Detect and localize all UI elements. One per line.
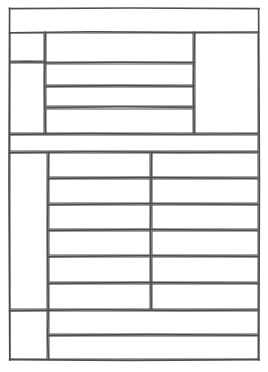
upper-left-column-row-divider bbox=[10, 62, 45, 63]
lower-cell-r6c1[interactable] bbox=[49, 284, 150, 309]
lower-cell-r5c2[interactable] bbox=[152, 257, 258, 282]
upper-middle-cell-4[interactable] bbox=[46, 109, 193, 133]
lower-cell-r4c1[interactable] bbox=[49, 231, 150, 255]
lower-left-column-cell[interactable] bbox=[10, 153, 47, 309]
frame-right-border bbox=[259, 9, 260, 360]
middle-band-bottom-rule bbox=[10, 152, 259, 153]
lower-cell-r3c1[interactable] bbox=[49, 205, 150, 229]
upper-middle-cell-3[interactable] bbox=[46, 87, 193, 106]
footer-cell-row2[interactable] bbox=[49, 336, 258, 359]
footer-left-column-cell[interactable] bbox=[10, 311, 47, 359]
lower-cell-r6c2[interactable] bbox=[152, 284, 258, 309]
upper-left-cell-2[interactable] bbox=[10, 63, 44, 133]
lower-cell-r3c2[interactable] bbox=[152, 205, 258, 229]
upper-left-cell-1[interactable] bbox=[10, 33, 44, 61]
middle-band-cell[interactable] bbox=[10, 135, 258, 151]
form-grid-sheet bbox=[0, 0, 268, 372]
middle-band bbox=[10, 152, 259, 153]
frame-top-border bbox=[10, 8, 260, 9]
frame-bottom-border bbox=[10, 360, 259, 361]
footer-table-row-divider bbox=[48, 335, 258, 336]
lower-cell-r2c1[interactable] bbox=[49, 179, 150, 203]
lower-cell-r1c2[interactable] bbox=[152, 153, 258, 177]
upper-middle-row-divider-2 bbox=[45, 86, 194, 87]
upper-table-col-divider-2 bbox=[194, 32, 195, 134]
lower-cell-r2c2[interactable] bbox=[152, 179, 258, 203]
lower-table-row-divider-2 bbox=[48, 204, 258, 205]
upper-table-col-divider-1 bbox=[45, 32, 46, 134]
upper-table-bottom-rule bbox=[10, 134, 259, 135]
lower-table-col-divider-1 bbox=[48, 152, 49, 310]
lower-table-row-divider-1 bbox=[48, 178, 258, 179]
upper-middle-cell-2[interactable] bbox=[46, 64, 193, 85]
footer-cell-row1[interactable] bbox=[49, 311, 258, 334]
upper-middle-cell-1[interactable] bbox=[46, 33, 193, 62]
upper-right-cell-1[interactable] bbox=[195, 33, 258, 133]
lower-table-row-divider-3 bbox=[48, 230, 258, 231]
lower-table-col-divider-2 bbox=[151, 152, 152, 310]
lower-table-row-divider-5 bbox=[48, 283, 258, 284]
lower-cell-r4c2[interactable] bbox=[152, 231, 258, 255]
lower-cell-r1c1[interactable] bbox=[49, 153, 150, 177]
upper-middle-row-divider-3 bbox=[45, 107, 194, 108]
page-canvas bbox=[0, 0, 268, 372]
lower-table-bottom-rule bbox=[10, 310, 259, 311]
lower-table-row-divider-4 bbox=[48, 256, 258, 257]
lower-cell-r5c1[interactable] bbox=[49, 257, 150, 282]
